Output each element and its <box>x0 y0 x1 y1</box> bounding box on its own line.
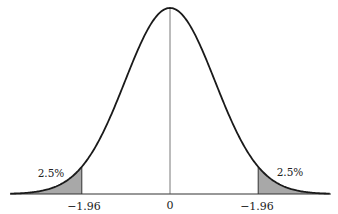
left-tail-label: 2.5% <box>38 167 65 179</box>
left-critical-label: −1.96 <box>67 200 101 213</box>
right-critical-label: −1.96 <box>240 200 274 213</box>
normal-curve-svg: 0 −1.96 −1.96 2.5% 2.5% <box>0 0 338 214</box>
right-tail-label: 2.5% <box>277 166 304 178</box>
center-label: 0 <box>167 199 174 212</box>
normal-distribution-figure: 0 −1.96 −1.96 2.5% 2.5% <box>0 0 338 214</box>
